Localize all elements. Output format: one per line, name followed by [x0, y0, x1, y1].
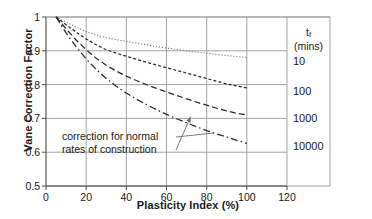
legend-title-subscript: f [309, 30, 311, 39]
vane-correction-factor-chart: Vane Correction Factor Plasticity Index … [0, 0, 372, 219]
y-tick-label-0.8: 0.8 [10, 79, 40, 91]
annotation-line-1: correction for normal [62, 130, 158, 143]
x-tick-label-100: 100 [227, 191, 267, 203]
legend-item-10: 10 [293, 55, 305, 67]
annotation-line-2: rates of construction [62, 143, 158, 156]
legend-title-units: (mins) [274, 40, 344, 52]
annotation-label: correction for normalrates of constructi… [62, 130, 158, 156]
y-tick-label-0.7: 0.7 [10, 112, 40, 124]
y-tick-label-1: 1 [10, 11, 40, 23]
legend-item-1000: 1000 [293, 112, 317, 124]
x-tick-label-60: 60 [147, 191, 187, 203]
legend-title-symbol: tf [306, 26, 311, 38]
x-tick-label-120: 120 [267, 191, 307, 203]
y-tick-label-0.6: 0.6 [10, 146, 40, 158]
legend-title: tf(mins) [274, 26, 344, 52]
x-tick-label-40: 40 [106, 191, 146, 203]
legend-item-10000: 10000 [293, 140, 324, 152]
legend-item-100: 100 [293, 85, 311, 97]
y-tick-label-0.9: 0.9 [10, 45, 40, 57]
series-line-1000 [56, 17, 247, 115]
series-line-10 [56, 17, 247, 58]
series-line-100 [56, 17, 247, 88]
x-tick-label-20: 20 [66, 191, 106, 203]
x-tick-label-80: 80 [187, 191, 227, 203]
series-line-10000 [56, 17, 247, 143]
x-tick-label-0: 0 [26, 191, 66, 203]
annotation-leader-stub [176, 133, 214, 137]
